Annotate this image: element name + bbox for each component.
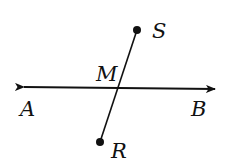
point-r (96, 138, 104, 146)
point-s (133, 26, 141, 34)
segment-rs (100, 30, 137, 142)
geometry-diagram: S M A B R (0, 0, 226, 161)
label-r: R (110, 139, 127, 161)
label-b: B (190, 97, 206, 121)
label-s: S (152, 19, 166, 43)
label-a: A (18, 97, 35, 121)
line-ab (24, 87, 215, 89)
label-m: M (95, 62, 118, 86)
